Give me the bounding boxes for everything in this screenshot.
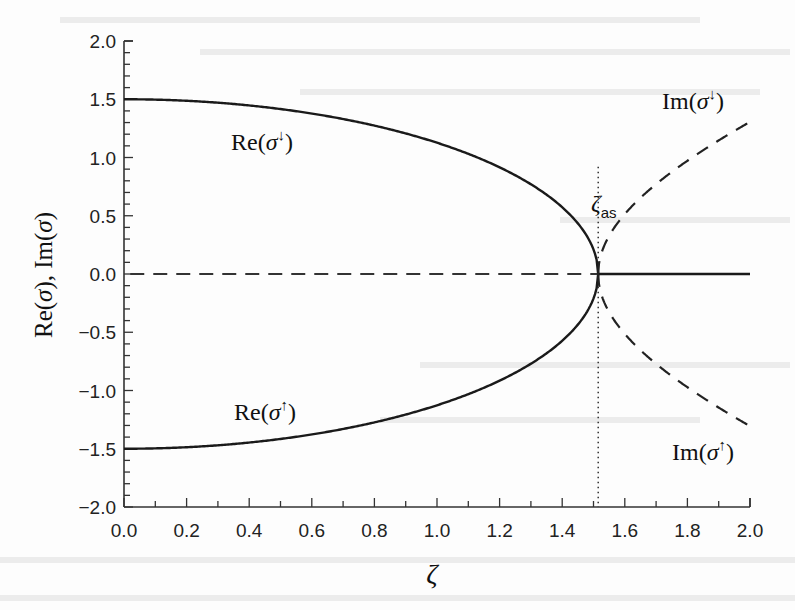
- y-tick-label: −1.0: [78, 381, 116, 402]
- plot-axes: 2.01.51.00.50.0−0.5−1.0−1.5−2.00.00.20.4…: [78, 31, 763, 541]
- y-tick-label: 1.0: [90, 148, 116, 169]
- x-tick-label: 2.0: [737, 520, 763, 541]
- im-sigma-down-label: Im(σ↓): [662, 86, 724, 114]
- y-tick-label: 1.5: [90, 89, 116, 110]
- im-sigma-down-curve: [598, 122, 750, 274]
- y-tick-label: −1.5: [78, 439, 116, 460]
- x-tick-label: 0.2: [173, 520, 199, 541]
- re-sigma-down-label: Re(σ↓): [231, 127, 293, 155]
- y-axis-label: Re(σ), Im(σ): [30, 212, 58, 338]
- x-tick-label: 1.6: [612, 520, 638, 541]
- plot-series: [124, 99, 750, 507]
- zeta-as-label: ζas: [591, 190, 617, 221]
- x-tick-label: 1.0: [424, 520, 450, 541]
- x-tick-label: 1.4: [549, 520, 576, 541]
- x-tick-label: 0.6: [299, 520, 325, 541]
- re-sigma-down-curve: [124, 99, 598, 274]
- re-sigma-up-label: Re(σ↑): [234, 397, 296, 425]
- x-tick-label: 0.4: [236, 520, 263, 541]
- y-tick-label: −2.0: [78, 497, 116, 518]
- y-tick-label: 0.0: [90, 264, 116, 285]
- im-sigma-up-curve: [598, 274, 750, 426]
- im-sigma-up-label: Im(σ↑): [672, 437, 734, 465]
- x-axis-label: ζ: [426, 558, 439, 589]
- y-tick-label: 0.5: [90, 206, 116, 227]
- x-tick-label: 1.2: [486, 520, 512, 541]
- x-tick-label: 1.8: [674, 520, 700, 541]
- x-tick-label: 0.0: [111, 520, 137, 541]
- y-tick-label: −0.5: [78, 322, 116, 343]
- x-tick-label: 0.8: [361, 520, 387, 541]
- chart: 2.01.51.00.50.0−0.5−1.0−1.5−2.00.00.20.4…: [0, 0, 795, 610]
- y-tick-label: 2.0: [90, 31, 116, 52]
